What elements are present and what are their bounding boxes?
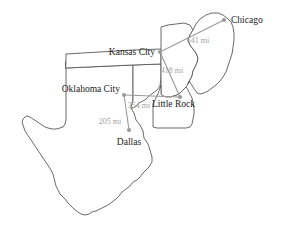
city-marker-oklahoma-city[interactable] <box>122 93 126 97</box>
distance-label-kc-littlerock: 418 mi <box>161 66 184 75</box>
distance-label-okc-dallas: 205 mi <box>99 117 122 126</box>
city-label-kansas-city: Kansas City <box>109 47 155 57</box>
distance-label-okc-littlerock: 354 mi <box>128 101 151 110</box>
city-label-dallas: Dallas <box>117 137 142 147</box>
city-label-oklahoma-city: Oklahoma City <box>62 84 121 94</box>
city-marker-dallas[interactable] <box>127 128 131 132</box>
distance-label-kc-chicago: 541 mi <box>187 36 210 45</box>
map-canvas: 541 mi 418 mi 354 mi 205 mi Chicago Kans… <box>0 0 285 235</box>
city-label-chicago: Chicago <box>231 15 263 25</box>
city-marker-kansas-city[interactable] <box>158 50 162 54</box>
distance-map: 541 mi 418 mi 354 mi 205 mi Chicago Kans… <box>0 0 285 235</box>
city-label-little-rock: Little Rock <box>152 99 195 109</box>
city-marker-chicago[interactable] <box>222 18 226 22</box>
